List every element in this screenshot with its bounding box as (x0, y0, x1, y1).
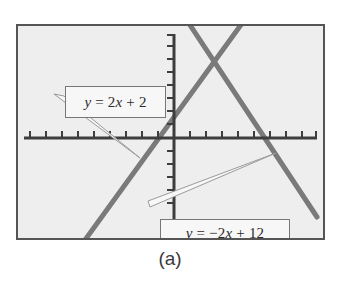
plot-canvas (18, 26, 323, 238)
callout-label-line1: y = 2x + 2 (65, 86, 166, 118)
equation-line2: y = −2x + 12 (186, 225, 265, 241)
callout-label-line2: y = −2x + 12 (160, 219, 290, 240)
line-y-equals-minus-2x-plus-12 (188, 26, 317, 217)
figure-container: y = 2x + 2 y = −2x + 12 (a) (0, 0, 340, 303)
callout-tail-line2 (148, 153, 276, 207)
equation-line1: y = 2x + 2 (84, 94, 146, 111)
figure-caption: (a) (0, 248, 340, 270)
plot-frame: y = 2x + 2 y = −2x + 12 (16, 24, 325, 240)
